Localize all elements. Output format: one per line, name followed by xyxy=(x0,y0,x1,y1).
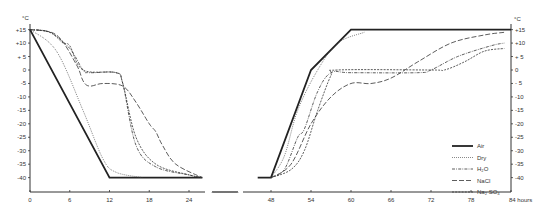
x-tick-label: 84 hours xyxy=(509,197,532,203)
left-y-tick-label: -5 xyxy=(21,80,27,86)
right-y-tick-label: -30 xyxy=(515,148,524,154)
series-dry-cooling-line xyxy=(30,30,143,178)
legend-label: NaCl xyxy=(477,178,490,184)
left-y-tick-label: -30 xyxy=(17,148,26,154)
left-y-tick-label: +15 xyxy=(16,27,27,33)
right-y-tick-label: -40 xyxy=(515,175,524,181)
left-y-tick-label: +10 xyxy=(16,40,27,46)
x-tick-label: 18 xyxy=(146,197,153,203)
series-lines xyxy=(30,30,511,178)
x-tick-label: 54 xyxy=(308,197,315,203)
legend-label: Na₂ SO₄ xyxy=(477,189,500,195)
right-unit-label: °C xyxy=(514,16,521,22)
right-y-tick-label: 0 xyxy=(515,67,519,73)
left-y-tick-label: -10 xyxy=(17,94,26,100)
series-na2so4-warming-line xyxy=(271,49,504,178)
left-y-tick-label: -35 xyxy=(17,161,26,167)
series-nacl-warming-line xyxy=(271,32,504,177)
left-y-tick-label: -20 xyxy=(17,121,26,127)
axis-break-icon xyxy=(212,191,238,193)
x-tick-label: 24 xyxy=(186,197,193,203)
left-y-tick-label: -40 xyxy=(17,175,26,181)
x-tick-label: 60 xyxy=(348,197,355,203)
x-tick-label: 72 xyxy=(428,197,435,203)
left-unit-label: °C xyxy=(22,15,29,21)
right-y-tick-label: -10 xyxy=(515,94,524,100)
series-dry-warming-line xyxy=(271,32,364,177)
temperature-chart: °C°C+15+15+10+10+ 5+ 500-5- 5-10-10-15-1… xyxy=(0,0,545,216)
series-air-warming-line xyxy=(258,30,511,178)
legend-label: H₂O xyxy=(477,166,489,172)
right-y-tick-label: -35 xyxy=(515,161,524,167)
legend-label: Air xyxy=(477,143,484,149)
right-y-tick-label: + 5 xyxy=(515,54,524,60)
series-nacl-cooling-line xyxy=(30,30,202,178)
x-tick-label: 6 xyxy=(68,197,72,203)
series-h2o-warming-line xyxy=(271,43,504,178)
right-y-tick-label: -15 xyxy=(515,107,524,113)
right-y-tick-label: -20 xyxy=(515,121,524,127)
x-tick-label: 0 xyxy=(28,197,32,203)
x-tick-label: 78 xyxy=(468,197,475,203)
series-h2o-cooling-line xyxy=(30,30,202,178)
axes: °C°C+15+15+10+10+ 5+ 500-5- 5-10-10-15-1… xyxy=(16,15,533,203)
series-air-cooling-line xyxy=(30,30,202,178)
left-y-tick-label: -15 xyxy=(17,107,26,113)
x-tick-label: 48 xyxy=(268,197,275,203)
left-y-tick-label: 0 xyxy=(23,67,27,73)
right-y-tick-label: - 5 xyxy=(515,80,523,86)
left-y-tick-label: + 5 xyxy=(17,54,26,60)
series-na2so4-cooling-line xyxy=(30,30,202,178)
legend: AirDryH₂ONaClNa₂ SO₄ xyxy=(452,143,500,195)
x-tick-label: 12 xyxy=(106,197,113,203)
legend-label: Dry xyxy=(477,155,486,161)
left-y-tick-label: -25 xyxy=(17,134,26,140)
right-y-tick-label: +15 xyxy=(515,27,526,33)
x-tick-label: 66 xyxy=(388,197,395,203)
right-y-tick-label: +10 xyxy=(515,40,526,46)
right-y-tick-label: -25 xyxy=(515,134,524,140)
